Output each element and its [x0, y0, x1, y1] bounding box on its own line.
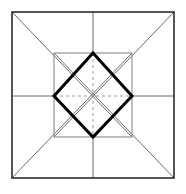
geometric-figure	[0, 0, 186, 194]
